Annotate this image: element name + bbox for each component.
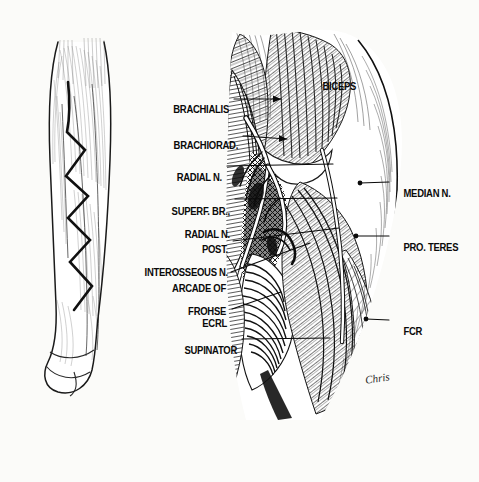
label-biceps: BICEPS <box>313 69 356 104</box>
label-median-n: MEDIAN N. <box>394 176 451 211</box>
label-supinator: SUPINATOR <box>151 333 237 368</box>
label-pro-teres: PRO. TERES <box>394 230 458 265</box>
label-pro-teres-text: PRO. TERES <box>403 241 458 253</box>
label-ecrl-text: ECRL <box>202 317 227 329</box>
dot-pro-teres <box>354 234 359 239</box>
dot-fcr <box>364 317 369 322</box>
anatomical-figure: BRACHIALIS BRACHIORAD. RADIAL N. SUPERF.… <box>0 0 479 482</box>
label-radial-n-text: RADIAL N. <box>177 171 222 183</box>
label-radial-n: RADIAL N. <box>136 160 222 195</box>
label-brachiorad: BRACHIORAD. <box>152 128 238 163</box>
label-supinator-text: SUPINATOR <box>184 344 237 356</box>
label-superf-br-line1: SUPERF. BR., <box>172 205 230 217</box>
dot-median-n <box>358 181 363 186</box>
label-brachialis-text: BRACHIALIS <box>173 103 229 115</box>
label-arcade-line1: ARCADE OF <box>172 282 226 294</box>
leader-fcr <box>366 319 389 320</box>
label-brachialis: BRACHIALIS <box>143 92 229 127</box>
label-fcr: FCR <box>394 314 422 349</box>
label-median-n-text: MEDIAN N. <box>403 187 450 199</box>
label-post-interosseous-line1: POST. <box>202 243 228 255</box>
label-biceps-text: BICEPS <box>322 80 356 92</box>
label-brachiorad-text: BRACHIORAD. <box>174 139 238 151</box>
label-fcr-text: FCR <box>403 325 422 337</box>
